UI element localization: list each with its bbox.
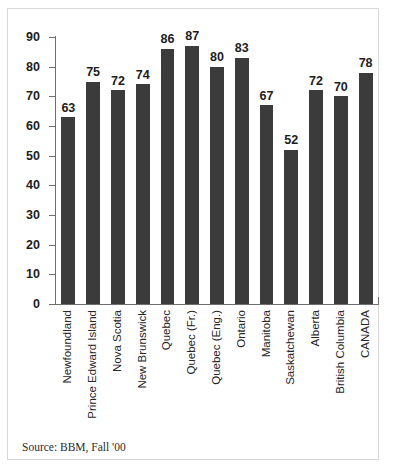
x-axis-category: Alberta	[304, 308, 329, 426]
bar-group[interactable]: 67	[260, 37, 274, 304]
bar-group[interactable]: 72	[111, 37, 125, 304]
y-axis-tick-label: 30	[0, 209, 40, 222]
x-axis-category: Prince Edward Island	[81, 308, 106, 426]
x-axis-category-label: Quebec (Fr.)	[186, 310, 198, 375]
y-axis-tick-mark	[49, 126, 56, 127]
bar-value-label: 72	[111, 75, 125, 88]
y-axis-tick-label: 80	[0, 61, 40, 74]
bar[interactable]	[309, 90, 323, 304]
y-axis-tick-label: 0	[0, 298, 40, 311]
x-axis-category-labels: NewfoundlandPrince Edward IslandNova Sco…	[56, 308, 378, 426]
bar[interactable]	[284, 150, 298, 304]
x-axis-end-cap	[378, 297, 379, 305]
x-axis-category-label: Nova Scotia	[112, 310, 124, 372]
bar-value-label: 87	[185, 30, 199, 43]
bar[interactable]	[61, 117, 75, 304]
bar[interactable]	[136, 84, 150, 304]
x-axis-category: Quebec (Fr.)	[180, 308, 205, 426]
x-axis-category: Nova Scotia	[106, 308, 131, 426]
y-axis-tick-label: 60	[0, 120, 40, 133]
x-axis-category: Quebec (Eng.)	[205, 308, 230, 426]
y-axis-tick: 0	[49, 304, 56, 305]
bar-value-label: 74	[136, 69, 150, 82]
y-axis-tick-label: 10	[0, 268, 40, 281]
y-axis-tick: 30	[49, 215, 56, 216]
bar-value-label: 80	[210, 51, 224, 64]
bar-group[interactable]: 52	[284, 37, 298, 304]
x-axis-category-label: Alberta	[310, 310, 322, 346]
bar-value-label: 63	[61, 102, 75, 115]
y-axis-tick-mark	[49, 304, 56, 305]
bar[interactable]	[359, 73, 373, 304]
bar-group[interactable]: 78	[359, 37, 373, 304]
bar-value-label: 78	[359, 57, 373, 70]
y-axis-tick-mark	[49, 274, 56, 275]
bar-group[interactable]: 80	[210, 37, 224, 304]
bar[interactable]	[111, 90, 125, 304]
y-axis-tick-mark	[49, 156, 56, 157]
y-axis-tick-label: 50	[0, 150, 40, 163]
x-axis-category-label: Prince Edward Island	[87, 310, 99, 419]
x-axis-category: Saskatchewan	[279, 308, 304, 426]
x-axis-category: British Columbia	[328, 308, 353, 426]
x-axis-category-label: Manitoba	[261, 310, 273, 357]
y-axis-tick: 10	[49, 274, 56, 275]
bar-group[interactable]: 86	[161, 37, 175, 304]
bar-value-label: 70	[334, 81, 348, 94]
x-axis-category: New Brunswick	[130, 308, 155, 426]
bar-group[interactable]: 75	[86, 37, 100, 304]
x-axis-category: CANADA	[353, 308, 378, 426]
chart-figure: 9080706050403020100 63757274868780836752…	[0, 0, 398, 468]
bar[interactable]	[86, 82, 100, 305]
bar[interactable]	[260, 105, 274, 304]
x-axis-category: Quebec	[155, 308, 180, 426]
bar-group[interactable]: 63	[61, 37, 75, 304]
y-axis-tick: 20	[49, 245, 56, 246]
y-axis-tick: 50	[49, 156, 56, 157]
x-axis-category-label: Saskatchewan	[286, 310, 298, 385]
x-axis-category-label: British Columbia	[335, 310, 347, 394]
y-axis-tick-mark	[49, 245, 56, 246]
bar-value-label: 75	[86, 66, 100, 79]
plot-area: 9080706050403020100 63757274868780836752…	[0, 0, 398, 468]
x-axis-category-label: Ontario	[236, 310, 248, 348]
y-axis-tick-mark	[49, 185, 56, 186]
bar-group[interactable]: 87	[185, 37, 199, 304]
bar[interactable]	[161, 49, 175, 304]
bar-group[interactable]: 83	[235, 37, 249, 304]
y-axis-tick-label: 70	[0, 90, 40, 103]
x-axis-category: Manitoba	[254, 308, 279, 426]
bar[interactable]	[235, 58, 249, 304]
y-axis-tick-mark	[49, 215, 56, 216]
y-axis-tick-label: 90	[0, 31, 40, 44]
bar-group[interactable]: 74	[136, 37, 150, 304]
bar-value-label: 83	[235, 42, 249, 55]
y-axis-tick: 60	[49, 126, 56, 127]
bar-series: 63757274868780836752727078	[56, 37, 378, 304]
bar-group[interactable]: 70	[334, 37, 348, 304]
y-axis-tick-label: 40	[0, 179, 40, 192]
y-axis-tick-mark	[49, 37, 56, 38]
x-axis-category-label: Quebec	[162, 310, 174, 350]
bar-value-label: 52	[284, 134, 298, 147]
x-axis-category-label: New Brunswick	[137, 310, 149, 389]
bar-value-label: 67	[260, 90, 274, 103]
bar[interactable]	[334, 96, 348, 304]
y-axis-tick-mark	[49, 96, 56, 97]
bar-value-label: 86	[160, 33, 174, 46]
x-axis-category: Ontario	[229, 308, 254, 426]
y-axis-tick: 70	[49, 96, 56, 97]
x-axis-category-label: Newfoundland	[63, 310, 75, 384]
bar-value-label: 72	[309, 75, 323, 88]
x-axis-category: Newfoundland	[56, 308, 81, 426]
bar[interactable]	[210, 67, 224, 304]
x-axis-category-label: Quebec (Eng.)	[211, 310, 223, 385]
y-axis-tick: 90	[49, 37, 56, 38]
y-axis-tick: 80	[49, 67, 56, 68]
bar[interactable]	[185, 46, 199, 304]
y-axis-tick-mark	[49, 67, 56, 68]
x-axis-category-label: CANADA	[360, 310, 372, 358]
y-axis-tick-label: 20	[0, 239, 40, 252]
bar-group[interactable]: 72	[309, 37, 323, 304]
y-axis-tick: 40	[49, 185, 56, 186]
